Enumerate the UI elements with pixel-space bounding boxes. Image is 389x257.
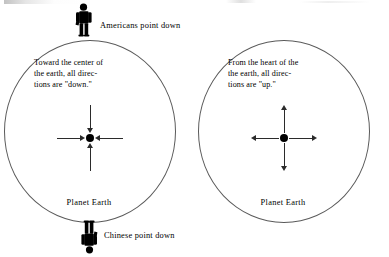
arrow-down-icon xyxy=(280,143,289,171)
inner-caption-line: tions are "down." xyxy=(34,79,146,90)
inner-caption-line: From the heart of the xyxy=(228,57,340,68)
panel-up: Americans point up From the heart of the… xyxy=(194,0,389,257)
arrow-right-icon xyxy=(57,134,85,143)
arrow-left-icon xyxy=(95,134,123,143)
earth-center-dot xyxy=(280,134,288,142)
planet-earth-label-down: Planet Earth xyxy=(0,198,178,207)
inner-caption-line: the earth, all direc- xyxy=(228,68,340,79)
arrow-up-icon xyxy=(280,105,289,133)
inner-caption-down: Toward the center of the earth, all dire… xyxy=(34,57,146,91)
arrow-right-icon xyxy=(289,134,317,143)
arrow-cluster-outward xyxy=(250,104,318,172)
label-chinese-point-down: Chinese point down xyxy=(104,231,175,240)
inner-caption-up: From the heart of the the earth, all dir… xyxy=(228,57,340,91)
inner-caption-line: Toward the center of xyxy=(34,57,146,68)
planet-earth-label-up: Planet Earth xyxy=(194,198,372,207)
panel-down: Americans point down Toward the center o… xyxy=(0,0,195,257)
arrow-down-icon xyxy=(86,105,95,133)
arrow-left-icon xyxy=(251,134,279,143)
arrow-cluster-inward xyxy=(56,104,124,172)
arrow-up-icon xyxy=(86,143,95,171)
earth-center-dot xyxy=(86,134,94,142)
label-americans-point-down: Americans point down xyxy=(100,21,180,30)
figure-chinese-pointing-down xyxy=(79,220,99,254)
inner-caption-line: tions are "up." xyxy=(228,79,340,90)
diagram-page: Americans point down Toward the center o… xyxy=(0,0,389,257)
figure-americans-pointing-down xyxy=(74,3,94,37)
inner-caption-line: the earth, all direc- xyxy=(34,68,146,79)
